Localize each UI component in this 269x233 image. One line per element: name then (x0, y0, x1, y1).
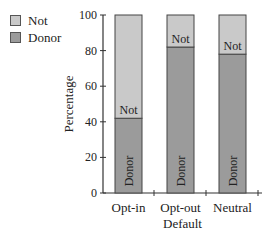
y-tick-label: 40 (85, 115, 97, 129)
stacked-bar-chart: 020406080100PercentageDonorNotOpt-inDono… (0, 0, 269, 233)
y-tick-label: 80 (85, 44, 97, 58)
x-tick-label: Opt-in (112, 200, 146, 215)
y-tick-label: 0 (91, 186, 97, 200)
y-tick-label: 20 (85, 150, 97, 164)
y-axis-label: Percentage (61, 75, 76, 132)
bar-label-not: Not (224, 39, 243, 53)
x-tick-label: Neutral (213, 200, 252, 215)
x-tick-label: Opt-out (160, 200, 201, 215)
bar-label-not: Not (172, 32, 191, 46)
x-axis-label: Default (163, 216, 202, 231)
y-tick-label: 60 (85, 79, 97, 93)
bar-label-donor: Donor (122, 156, 136, 187)
bar-label-not: Not (120, 103, 139, 117)
y-tick-label: 100 (79, 8, 97, 22)
bar-label-donor: Donor (226, 156, 240, 187)
bar-label-donor: Donor (174, 156, 188, 187)
